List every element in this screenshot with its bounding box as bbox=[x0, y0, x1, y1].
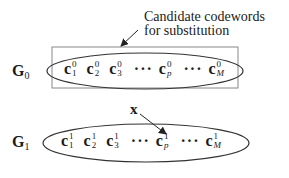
ellipsis: ··· bbox=[183, 60, 202, 78]
input-vector-x: x bbox=[130, 101, 138, 118]
ellipsis: ··· bbox=[131, 132, 150, 150]
codeword-cp-1: c1p bbox=[156, 132, 169, 150]
codeword-c2-1: c12 bbox=[84, 132, 97, 150]
codeword-cp-0: c0p bbox=[159, 60, 172, 78]
group-0-codewords: c01 c02 c03 ··· c0p ··· c0M bbox=[64, 60, 234, 78]
annotation-line-1: Candidate codewords bbox=[144, 10, 265, 24]
ellipsis: ··· bbox=[134, 60, 153, 78]
codeword-cM-0: c0M bbox=[208, 60, 224, 78]
annotation-line-2: for substitution bbox=[144, 24, 229, 38]
codeword-c3-1: c13 bbox=[106, 132, 119, 150]
codeword-cM-1: c1M bbox=[205, 132, 221, 150]
codeword-c1-0: c01 bbox=[64, 60, 77, 78]
annotation-arrow bbox=[121, 30, 138, 46]
codeword-c1-1: c11 bbox=[61, 132, 74, 150]
ellipsis: ··· bbox=[180, 132, 199, 150]
codeword-c3-0: c03 bbox=[109, 60, 122, 78]
group-1-codewords: c11 c12 c13 ··· c1p ··· c1M bbox=[61, 132, 231, 150]
group-1-label: G1 bbox=[12, 133, 29, 152]
codeword-c2-0: c02 bbox=[87, 60, 100, 78]
group-0-label: G0 bbox=[12, 62, 29, 81]
